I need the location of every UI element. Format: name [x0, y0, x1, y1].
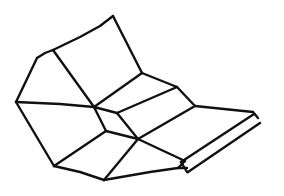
- sketch-line-strip-2-bottom: [138, 106, 195, 139]
- folded-shape-sketch: [0, 0, 284, 196]
- sketch-line-horizontal-fold-1: [16, 102, 94, 107]
- sketch-line-strip-1-bottom: [117, 87, 177, 113]
- sketch-line-k-q: [138, 139, 185, 161]
- sketch-line-top-panel-bottom: [94, 73, 142, 107]
- sketch-line-ribbon-outer-edge: [188, 123, 260, 172]
- sketch-line-ribbon-top: [195, 106, 253, 112]
- sketch-line-strip-1-top: [142, 73, 177, 87]
- sketch-line-bottom-right-edge: [104, 168, 187, 180]
- sketch-line-top-edge: [53, 16, 113, 50]
- sketch-line-right-top-edge: [113, 16, 142, 73]
- sketch-line-left-outer-edge: [16, 58, 37, 102]
- sketch-line-ribbon-inner-edge: [181, 114, 254, 162]
- sketch-line-bottom-left-edge: [54, 166, 104, 180]
- sketch-line-diag-l-n: [54, 131, 106, 166]
- sketch-line-inner-fold-left: [53, 50, 94, 107]
- sketch-line-left-lower-edge: [16, 102, 54, 166]
- line-drawing-figure: [0, 0, 284, 196]
- sketch-line-strip-1-end: [177, 87, 195, 106]
- sketch-line-top-edge-left: [37, 50, 53, 58]
